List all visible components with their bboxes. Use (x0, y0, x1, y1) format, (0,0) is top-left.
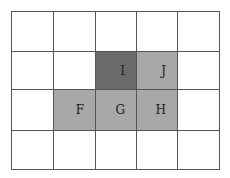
cell-label: J (161, 65, 166, 77)
grid-cell-f: F (53, 89, 96, 131)
grid-diagram: IJFGH (11, 11, 219, 169)
grid-cell-empty (136, 11, 178, 52)
grid-cell-empty (11, 11, 54, 52)
grid-cell-empty (177, 89, 220, 131)
grid-cell-empty (53, 11, 96, 52)
grid-cell-empty (136, 130, 178, 170)
grid-cell-empty (11, 130, 54, 170)
grid-cell-empty (95, 11, 137, 52)
cell-label: H (156, 104, 166, 116)
cell-label: I (120, 65, 125, 77)
grid-cell-g: G (95, 89, 137, 131)
grid-cell-j: J (136, 51, 178, 90)
grid-cell-empty (95, 130, 137, 170)
grid-cell-empty (53, 51, 96, 90)
grid-cell-h: H (136, 89, 178, 131)
grid-cell-empty (177, 51, 220, 90)
grid-cell-empty (11, 51, 54, 90)
cell-label: F (76, 104, 84, 116)
grid-cell-i: I (95, 51, 137, 90)
grid-cell-empty (11, 89, 54, 131)
cell-label: G (115, 104, 125, 116)
grid-cell-empty (177, 130, 220, 170)
grid-cell-empty (177, 11, 220, 52)
grid-cell-empty (53, 130, 96, 170)
